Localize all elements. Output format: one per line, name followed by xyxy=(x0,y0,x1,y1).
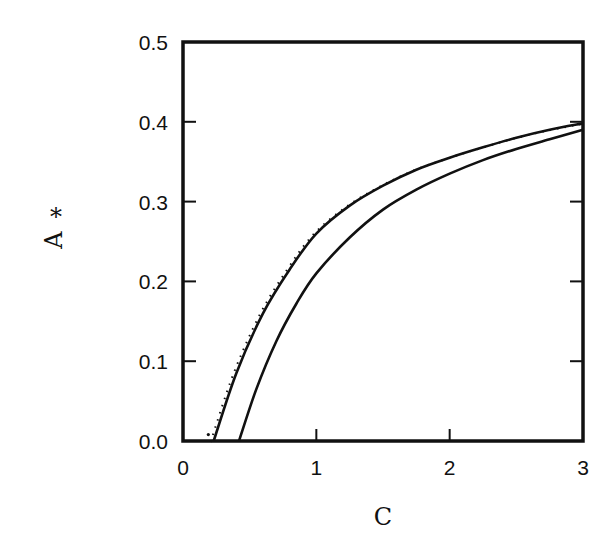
x-tick-label: 2 xyxy=(444,456,456,479)
x-tick-label: 0 xyxy=(177,456,189,479)
y-tick-label: 0.4 xyxy=(139,111,169,134)
x-tick-label: 3 xyxy=(577,456,589,479)
plot-border xyxy=(183,42,583,441)
y-tick-label: 0.5 xyxy=(139,31,168,54)
series-lines xyxy=(207,123,583,442)
inner-curve xyxy=(239,130,583,441)
y-tick-label: 0.1 xyxy=(139,350,168,373)
x-tick-label: 1 xyxy=(310,456,322,479)
outer-curve xyxy=(214,123,583,441)
chart: 0.00.10.20.30.40.50123 C A * xyxy=(0,0,615,549)
dot-marker xyxy=(207,433,210,436)
x-axis-label: C xyxy=(374,503,392,531)
axis-ticks: 0.00.10.20.30.40.50123 xyxy=(139,31,589,479)
y-tick-label: 0.2 xyxy=(139,270,168,293)
y-axis-label-star: * xyxy=(50,203,62,231)
y-tick-label: 0.0 xyxy=(139,430,168,453)
plot-frame xyxy=(183,42,583,441)
y-axis-label-text: A xyxy=(40,231,68,250)
dotted-curve xyxy=(211,124,580,442)
y-axis-label: A xyxy=(40,231,68,250)
y-tick-label: 0.3 xyxy=(139,191,168,214)
